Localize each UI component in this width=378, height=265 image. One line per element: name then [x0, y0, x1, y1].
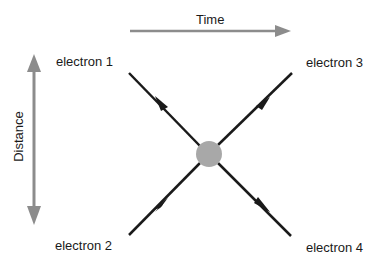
electron-4-line: [218, 163, 291, 236]
electron-1-label: electron 1: [56, 54, 113, 69]
electron-3-label: electron 3: [306, 55, 363, 70]
electron-3-line: [218, 73, 292, 145]
direction-arrow-icon: [256, 97, 270, 110]
distance-label: Distance: [11, 109, 26, 165]
interaction-vertex: [196, 141, 222, 167]
distance-axis-arrow: [27, 54, 41, 225]
electron-1-line: [129, 73, 200, 146]
electron-4-label: electron 4: [306, 240, 363, 255]
electron-2-label: electron 2: [55, 238, 112, 253]
direction-arrow-icon: [254, 197, 270, 212]
diagram-canvas: [0, 0, 378, 265]
time-label: Time: [196, 12, 224, 27]
electron-2-line: [129, 163, 200, 235]
